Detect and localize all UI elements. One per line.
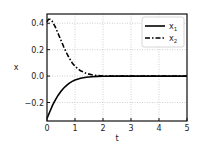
y-tick-label: 0.0 bbox=[31, 72, 44, 81]
x-tick-label: 0 bbox=[44, 124, 49, 133]
x-tick-label: 5 bbox=[184, 124, 189, 133]
x-axis-label: t bbox=[115, 134, 118, 143]
legend: x1 x2 bbox=[142, 17, 184, 47]
y-tick-label: 0.4 bbox=[31, 19, 44, 28]
legend-box bbox=[142, 17, 184, 47]
y-tick-label: 0.2 bbox=[31, 46, 44, 55]
series-line-x1 bbox=[47, 76, 187, 118]
x-axis-ticks: 012345 bbox=[44, 118, 189, 133]
y-tick-label: −0.2 bbox=[25, 99, 44, 108]
x-tick-label: 4 bbox=[156, 124, 161, 133]
x-tick-label: 3 bbox=[128, 124, 133, 133]
y-axis-ticks: −0.20.00.20.4 bbox=[25, 19, 50, 107]
x-tick-label: 1 bbox=[72, 124, 77, 133]
y-axis-label: x bbox=[14, 63, 19, 72]
line-chart: 012345 −0.20.00.20.4 t x x1 x2 bbox=[0, 0, 200, 151]
x-tick-label: 2 bbox=[100, 124, 105, 133]
